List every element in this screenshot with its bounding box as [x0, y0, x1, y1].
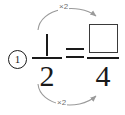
numerator-multiply-label: ×2	[58, 3, 69, 11]
numerator-multiply-arrow	[38, 8, 96, 30]
denominator-multiply-label: ×2	[56, 99, 67, 107]
worksheet-equivalent-fraction-exercise: 1 1 2 4 ×2 ×2	[0, 0, 125, 115]
